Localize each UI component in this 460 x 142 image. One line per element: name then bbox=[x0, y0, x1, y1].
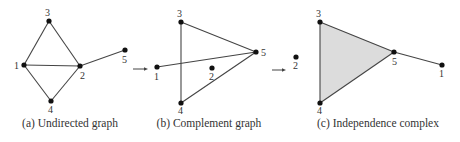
vertex-a-1 bbox=[21, 62, 26, 67]
vertex-c-1 bbox=[439, 62, 444, 67]
graph-edges bbox=[24, 21, 442, 103]
edge-b-1-5 bbox=[157, 52, 256, 67]
vertex-label-b-2: 2 bbox=[209, 71, 214, 82]
vertex-label-c-1: 1 bbox=[439, 68, 444, 79]
vertex-label-c-5: 5 bbox=[392, 56, 397, 67]
vertex-label-c-2: 2 bbox=[293, 60, 298, 71]
caption-independence-complex: (c) Independence complex bbox=[317, 117, 439, 130]
edge-b-4-5 bbox=[181, 52, 256, 103]
vertex-a-3 bbox=[46, 18, 51, 23]
vertex-label-c-3: 3 bbox=[316, 8, 321, 19]
vertex-label-b-3: 3 bbox=[177, 8, 182, 19]
vertex-b-1 bbox=[154, 64, 159, 69]
edge-a-2-5 bbox=[80, 50, 125, 66]
vertex-label-a-3: 3 bbox=[45, 7, 50, 18]
vertex-c-5 bbox=[391, 49, 396, 54]
edge-a-1-2 bbox=[24, 65, 80, 66]
edge-b-3-5 bbox=[181, 22, 256, 52]
edge-a-4-2 bbox=[51, 66, 80, 101]
vertex-b-5 bbox=[253, 49, 258, 54]
vertex-label-b-5: 5 bbox=[261, 47, 266, 58]
vertex-label-a-4: 4 bbox=[48, 104, 53, 115]
vertex-c-3 bbox=[317, 19, 322, 24]
vertex-label-a-2: 2 bbox=[80, 70, 85, 81]
vertex-label-c-4: 4 bbox=[317, 105, 322, 116]
edge-c-5-1 bbox=[394, 52, 442, 65]
vertex-b-2 bbox=[209, 65, 214, 70]
edge-a-3-2 bbox=[49, 21, 80, 66]
edge-a-1-4 bbox=[24, 65, 51, 101]
caption-complement-graph: (b) Complement graph bbox=[157, 117, 262, 130]
vertex-a-2 bbox=[77, 63, 82, 68]
graph-nodes bbox=[21, 18, 444, 105]
vertex-a-5 bbox=[122, 47, 127, 52]
vertex-a-4 bbox=[48, 98, 53, 103]
figure-canvas: 123451234512345 (a) Undirected graph (b)… bbox=[0, 0, 460, 142]
arrow-head-icon bbox=[282, 68, 286, 72]
edge-a-1-3 bbox=[24, 21, 49, 65]
vertex-label-b-1: 1 bbox=[154, 71, 159, 82]
vertex-label-a-1: 1 bbox=[14, 60, 19, 71]
vertex-c-2 bbox=[293, 54, 298, 59]
vertex-label-b-4: 4 bbox=[178, 105, 183, 116]
vertex-b-3 bbox=[178, 19, 183, 24]
panel-captions: (a) Undirected graph (b) Complement grap… bbox=[22, 117, 439, 130]
vertex-label-a-5: 5 bbox=[122, 54, 127, 65]
filled-triangle-3-5-4 bbox=[320, 22, 394, 103]
filled-faces bbox=[320, 22, 394, 103]
caption-undirected-graph: (a) Undirected graph bbox=[22, 117, 118, 130]
arrow-head-icon bbox=[144, 67, 148, 71]
